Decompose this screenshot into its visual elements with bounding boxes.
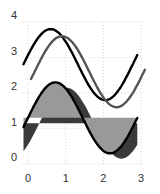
top-line-black [24, 29, 138, 100]
x-tick-label: 3 [138, 172, 144, 184]
x-tick-label: 0 [25, 172, 31, 184]
x-axis-ticks: 0123 [25, 172, 144, 184]
y-tick-label: 0 [11, 151, 17, 163]
y-tick-label: 1 [11, 116, 17, 128]
y-axis-ticks: 01234 [11, 9, 17, 163]
y-tick-label: 4 [11, 9, 17, 21]
y-tick-label: 2 [11, 80, 17, 92]
x-tick-label: 1 [63, 172, 69, 184]
chart: 01234 0123 [0, 0, 160, 194]
y-tick-label: 3 [11, 45, 17, 57]
series-layer [24, 29, 145, 159]
x-tick-label: 2 [100, 172, 106, 184]
